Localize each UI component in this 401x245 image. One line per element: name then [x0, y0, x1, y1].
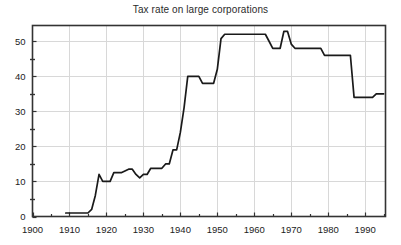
chart-container: Tax rate on large corporations 190019101… — [0, 0, 401, 245]
x-tick-label: 1950 — [207, 224, 228, 235]
data-series-layer — [66, 31, 384, 213]
x-tick-label: 1970 — [281, 224, 302, 235]
x-axis-tick-labels: 1900191019201930194019501960197019801990 — [22, 224, 376, 235]
y-tick-label: 0 — [20, 211, 25, 222]
y-tick-label: 30 — [15, 106, 26, 117]
x-tick-label: 1980 — [318, 224, 339, 235]
y-tick-label: 40 — [15, 71, 26, 82]
x-tick-label: 1990 — [355, 224, 376, 235]
axis-ticks — [30, 42, 385, 218]
x-tick-label: 1940 — [170, 224, 191, 235]
y-axis-tick-labels: 01020304050 — [15, 36, 26, 222]
line-chart-plot: 1900191019201930194019501960197019801990… — [0, 0, 401, 245]
x-tick-label: 1900 — [22, 224, 43, 235]
y-tick-label: 20 — [15, 141, 26, 152]
plot-frame — [33, 26, 386, 217]
y-tick-label: 50 — [15, 36, 26, 47]
x-tick-label: 1930 — [133, 224, 154, 235]
x-tick-label: 1960 — [244, 224, 265, 235]
grid-lines — [33, 26, 386, 217]
x-tick-label: 1920 — [96, 224, 117, 235]
x-tick-label: 1910 — [59, 224, 80, 235]
y-tick-label: 10 — [15, 176, 26, 187]
